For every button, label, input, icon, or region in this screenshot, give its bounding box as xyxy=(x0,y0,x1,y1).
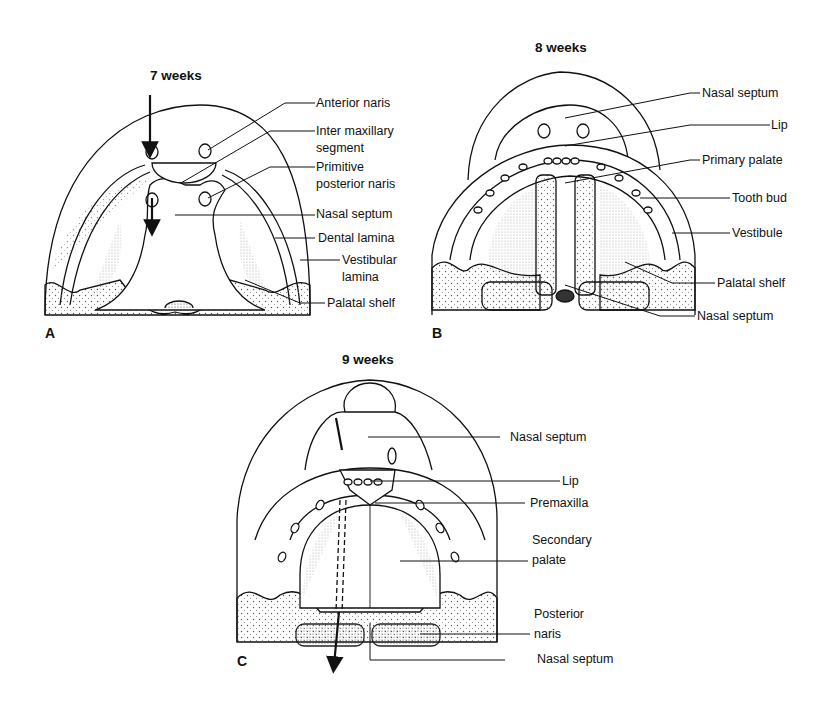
label-secondary-1: Secondary xyxy=(532,531,592,549)
label-nasal-septum-c2: Nasal septum xyxy=(537,650,613,668)
label-primitive-2: posterior naris xyxy=(316,175,395,193)
panel-a-letter: A xyxy=(45,325,55,341)
panel-b-title: 8 weeks xyxy=(535,40,587,55)
label-dental-lamina: Dental lamina xyxy=(318,229,394,247)
panel-b-drawing xyxy=(432,72,695,315)
label-posterior-naris-2: naris xyxy=(534,625,561,643)
panel-a-title: 7 weeks xyxy=(150,68,202,83)
label-lip-b: Lip xyxy=(771,116,788,134)
label-vestibular-2: lamina xyxy=(342,268,379,286)
label-nasal-septum-b1: Nasal septum xyxy=(702,84,778,102)
panel-c-drawing xyxy=(237,380,497,646)
panel-b-letter: B xyxy=(432,325,442,341)
label-vestibule: Vestibule xyxy=(732,224,783,242)
label-premaxilla: Premaxilla xyxy=(530,494,588,512)
label-secondary-2: palate xyxy=(532,551,566,569)
label-nasal-septum-b2: Nasal septum xyxy=(697,307,773,325)
label-nasal-septum-c1: Nasal septum xyxy=(510,428,586,446)
label-inter-maxillary-2: segment xyxy=(316,139,364,157)
label-anterior-naris: Anterior naris xyxy=(316,94,390,112)
label-primary-palate: Primary palate xyxy=(702,151,783,169)
panel-c-title: 9 weeks xyxy=(342,352,394,367)
label-primitive-1: Primitive xyxy=(316,158,364,176)
label-tooth-bud: Tooth bud xyxy=(732,189,787,207)
label-lip-c: Lip xyxy=(562,472,579,490)
label-palatal-shelf-a: Palatal shelf xyxy=(327,294,395,312)
label-nasal-septum-a: Nasal septum xyxy=(316,205,392,223)
panel-a-drawing xyxy=(45,105,310,315)
label-posterior-naris-1: Posterior xyxy=(534,605,584,623)
label-palatal-shelf-b: Palatal shelf xyxy=(717,274,785,292)
label-inter-maxillary-1: Inter maxillary xyxy=(316,122,394,140)
label-vestibular-1: Vestibular xyxy=(342,251,397,269)
panel-c-letter: C xyxy=(237,653,247,669)
diagram-canvas xyxy=(0,0,827,702)
